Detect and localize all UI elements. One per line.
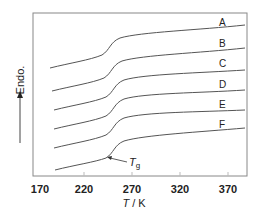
curve-label-E: E bbox=[219, 99, 226, 110]
x-tick-270: 270 bbox=[123, 183, 141, 195]
curve-A bbox=[50, 25, 245, 68]
curve-label-F: F bbox=[219, 119, 225, 130]
tg-label: Tg bbox=[129, 156, 140, 170]
curve-F bbox=[55, 128, 245, 170]
curve-label-D: D bbox=[219, 79, 226, 90]
x-tick-370: 370 bbox=[219, 183, 237, 195]
plot-frame bbox=[33, 13, 247, 176]
curve-label-C: C bbox=[219, 58, 226, 69]
curve-label-B: B bbox=[219, 38, 226, 49]
dsc-chart: A B C D E F Tg Endo. 170 220 270 320 370… bbox=[0, 0, 260, 217]
y-axis-label: Endo. bbox=[14, 66, 26, 95]
x-axis-label: T / K bbox=[122, 197, 146, 209]
curves bbox=[50, 25, 245, 170]
curve-B bbox=[52, 48, 245, 91]
curve-D bbox=[54, 90, 245, 129]
tg-arrow-line bbox=[110, 158, 127, 162]
curve-E bbox=[54, 110, 245, 148]
y-axis-label-group: Endo. bbox=[14, 66, 26, 143]
x-tick-320: 320 bbox=[171, 183, 189, 195]
x-tick-220: 220 bbox=[75, 183, 93, 195]
curve-label-A: A bbox=[219, 17, 226, 28]
x-ticks bbox=[84, 172, 228, 176]
curve-C bbox=[54, 70, 245, 110]
x-tick-170: 170 bbox=[31, 183, 49, 195]
